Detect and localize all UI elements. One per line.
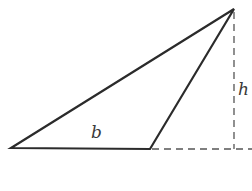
triangle-diagram: b h [0, 0, 252, 191]
triangle-shape [11, 9, 234, 149]
triangle-figure [0, 0, 252, 191]
height-label: h [238, 81, 249, 98]
base-label: b [91, 124, 102, 141]
